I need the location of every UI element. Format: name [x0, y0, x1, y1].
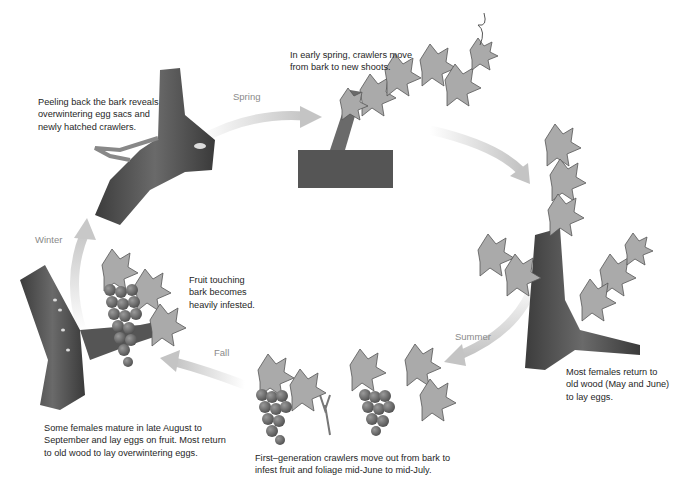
caption-fruit-touching: Fruit touching bark becomes heavily infe… [189, 274, 255, 311]
season-label-fall: Fall [214, 347, 229, 358]
first-generation-grapes-illustration [256, 344, 456, 445]
caption-spring-shoots: In early spring, crawlers move from bark… [290, 49, 412, 74]
season-label-spring: Spring [233, 91, 260, 102]
caption-fall-females: Some females mature in late August to Se… [44, 422, 226, 459]
fall-trunk-grapes-illustration [20, 249, 186, 410]
winter-bark-illustration [95, 68, 215, 225]
caption-summer-old-wood: Most females return to old wood (May and… [566, 366, 669, 403]
caption-first-generation: First–generation crawlers move out from … [255, 452, 450, 477]
caption-winter-bark: Peeling back the bark reveals overwinter… [38, 96, 159, 133]
spring-shoots-illustration [298, 13, 498, 188]
season-label-winter: Winter [35, 234, 62, 245]
cycle-arrows [74, 106, 535, 385]
season-label-summer: Summer [455, 331, 491, 342]
